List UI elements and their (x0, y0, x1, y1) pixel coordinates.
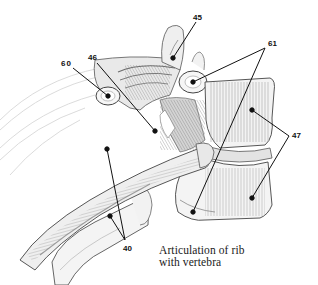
rib-vertebra-illustration: 45 61 60 46 47 40 Articulation of rib wi… (0, 0, 318, 285)
intervertebral-disc (205, 146, 272, 162)
caption-line-2: with vertebra (159, 256, 245, 268)
superior-process (162, 25, 205, 70)
label-60: 60 (61, 60, 72, 68)
upper-vertebral-body (205, 78, 275, 148)
label-45: 45 (193, 14, 202, 22)
background-ribs (0, 68, 102, 175)
label-46: 46 (88, 54, 97, 62)
caption-line-1: Articulation of rib (159, 244, 245, 256)
figure-caption: Articulation of rib with vertebra (159, 244, 245, 268)
label-40: 40 (123, 245, 132, 253)
label-47: 47 (292, 132, 301, 140)
label-61: 61 (268, 40, 277, 48)
